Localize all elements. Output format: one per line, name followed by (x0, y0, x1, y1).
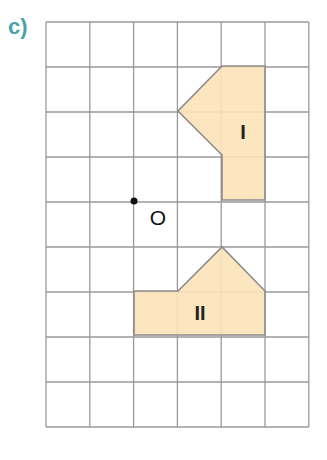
grid-diagram: III O (0, 0, 327, 460)
point-label: O (150, 206, 166, 229)
shape-label: I (240, 121, 246, 143)
shapes: III (134, 66, 265, 335)
point-dot (131, 198, 138, 205)
grid-lines (46, 22, 309, 427)
shape-i (178, 66, 265, 200)
shape-label: II (194, 302, 205, 324)
